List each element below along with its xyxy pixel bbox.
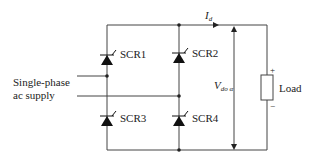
current-subscript: d <box>209 15 213 23</box>
scr2-label: SCR2 <box>192 47 218 59</box>
load-label: Load <box>279 82 302 94</box>
load-minus-sign: − <box>270 100 275 112</box>
scr3-label: SCR3 <box>120 112 146 124</box>
voltage-arrow-up-icon <box>231 26 237 32</box>
voltage-symbol: V <box>214 79 221 91</box>
load-resistor <box>261 75 273 100</box>
scr2-symbol <box>172 48 188 63</box>
voltage-subscript: do α <box>221 85 233 93</box>
voltage-label: Vdo α <box>214 79 233 93</box>
junction-dots <box>105 23 181 152</box>
current-arrow-icon <box>213 22 219 28</box>
supply-label: Single-phase ac supply <box>13 76 70 102</box>
load-plus-sign: + <box>270 64 275 76</box>
scr3-symbol <box>100 111 116 126</box>
scr4-label: SCR4 <box>192 112 218 124</box>
current-label: Id <box>205 9 212 23</box>
scr1-symbol <box>100 50 116 65</box>
supply-label-line2: ac supply <box>13 89 70 102</box>
voltage-arrow-down-icon <box>231 144 237 150</box>
scr4-symbol <box>172 111 188 126</box>
supply-label-line1: Single-phase <box>13 76 70 89</box>
scr1-label: SCR1 <box>120 48 146 60</box>
bottom-wire <box>107 25 267 150</box>
